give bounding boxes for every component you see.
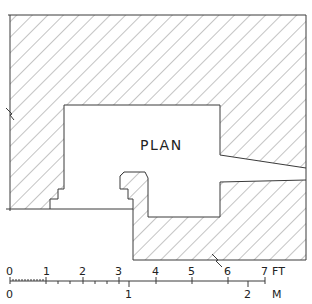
svg-text:6: 6 <box>224 265 231 278</box>
svg-text:1: 1 <box>125 288 132 301</box>
svg-text:M: M <box>272 288 282 301</box>
scale-bar: 0 1 2 3 4 5 6 7 FT 0 1 2 M <box>6 265 285 301</box>
svg-text:7: 7 <box>261 265 268 278</box>
svg-text:2: 2 <box>79 265 86 278</box>
meter-labels: 0 1 2 M <box>6 288 282 301</box>
architectural-plan: PLAN <box>0 0 312 304</box>
svg-text:4: 4 <box>152 265 159 278</box>
svg-text:0: 0 <box>6 265 13 278</box>
svg-text:1: 1 <box>43 265 50 278</box>
svg-text:0: 0 <box>6 288 13 301</box>
svg-text:2: 2 <box>244 288 251 301</box>
plan-label: PLAN <box>140 137 183 153</box>
svg-text:5: 5 <box>188 265 195 278</box>
svg-text:3: 3 <box>115 265 122 278</box>
svg-text:FT: FT <box>272 265 285 278</box>
feet-labels: 0 1 2 3 4 5 6 7 FT <box>6 265 285 278</box>
